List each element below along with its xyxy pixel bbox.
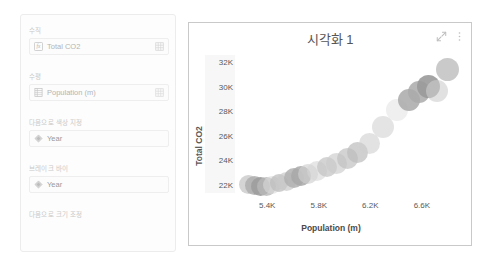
visual-card: 시각화 1 Total CO2 22K24K26K28K30K32K 5.4K5…	[188, 22, 472, 246]
field-well-label-break-by: 브레이크 바이	[29, 165, 169, 173]
field-pill-population[interactable]: Population (m)	[29, 84, 169, 101]
y-axis-tick-label: 32K	[219, 58, 233, 67]
field-well-break-by: 브레이크 바이 Year	[29, 165, 169, 193]
table-grid-icon[interactable]	[155, 88, 164, 97]
field-pill-year-break[interactable]: Year	[29, 176, 169, 193]
field-pill-total-co2[interactable]: fx Total CO2	[29, 38, 169, 55]
field-pill-label: Year	[47, 134, 164, 143]
field-wells-panel: 수직 fx Total CO2 수평	[20, 14, 176, 252]
y-axis-tick-label: 30K	[219, 82, 233, 91]
svg-text:fx: fx	[37, 43, 41, 49]
column-table-icon	[34, 88, 43, 97]
table-grid-icon[interactable]	[155, 42, 164, 51]
x-axis-title: Population (m)	[189, 223, 473, 233]
plot-wrapper: Total CO2 22K24K26K28K30K32K 5.4K5.8K6.2…	[189, 51, 473, 247]
field-pill-year-color[interactable]: Year	[29, 130, 169, 147]
x-axis-tick-label: 5.4K	[259, 201, 275, 211]
field-well-label-color-by: 다음으로 색상 지정	[29, 119, 169, 127]
scatter-bubble[interactable]	[436, 58, 459, 81]
y-axis-tick-label: 28K	[219, 107, 233, 116]
field-well-size-by: 다음으로 크기 조정	[29, 211, 169, 222]
y-axis-tick-label: 22K	[219, 180, 233, 189]
x-axis-ticks: 5.4K5.8K6.2K6.6K	[235, 201, 467, 213]
field-well-label-vertical: 수직	[29, 27, 169, 35]
x-axis-tick-label: 6.6K	[414, 201, 430, 211]
card-toolbar	[436, 31, 465, 42]
field-pill-label: Total CO2	[47, 42, 155, 51]
focus-mode-expand-icon[interactable]	[436, 31, 447, 42]
field-pill-label: Population (m)	[47, 88, 155, 97]
x-axis-tick-label: 6.2K	[362, 201, 378, 211]
field-pill-label: Year	[47, 180, 164, 189]
scatter-bubble[interactable]	[426, 80, 448, 102]
more-options-vertical-dots-icon[interactable]	[454, 31, 465, 42]
measure-fx-icon: fx	[34, 42, 43, 51]
field-well-label-horizontal: 수평	[29, 73, 169, 81]
field-well-label-size-by: 다음으로 크기 조정	[29, 211, 169, 219]
field-well-horizontal: 수평 Population (m)	[29, 73, 169, 101]
power-bi-visual-editor: 수직 fx Total CO2 수평	[0, 0, 491, 267]
diamond-icon	[34, 134, 43, 143]
y-axis-tick-label: 24K	[219, 156, 233, 165]
y-axis-tick-label: 26K	[219, 131, 233, 140]
scatter-plot-area[interactable]	[235, 55, 467, 197]
y-axis-title: Total CO2	[192, 101, 206, 191]
diamond-icon	[34, 180, 43, 189]
y-axis-ticks: 22K24K26K28K30K32K	[205, 55, 235, 193]
field-well-vertical: 수직 fx Total CO2	[29, 27, 169, 55]
field-well-color-by: 다음으로 색상 지정 Year	[29, 119, 169, 147]
x-axis-tick-label: 5.8K	[311, 201, 327, 211]
y-axis-title-text: Total CO2	[194, 126, 204, 166]
page-title: 시각화 1	[189, 32, 471, 48]
